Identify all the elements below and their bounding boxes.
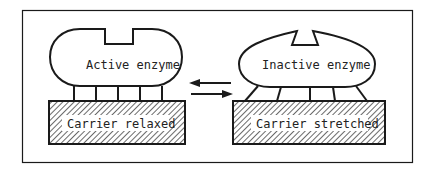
stretched-carrier-label: Carrier stretched — [256, 117, 379, 131]
equilibrium-arrows — [189, 79, 233, 98]
active-enzyme-label: Active enzyme — [86, 58, 180, 72]
arrow-right-head — [222, 90, 233, 98]
arrow-left-head — [189, 79, 200, 87]
stretched-linkers — [245, 86, 367, 101]
inactive-enzyme-group: Inactive enzyme Carrier stretched — [233, 31, 385, 144]
relaxed-linkers — [74, 86, 162, 101]
inactive-enzyme-label: Inactive enzyme — [262, 58, 370, 72]
relaxed-carrier-label: Carrier relaxed — [67, 117, 175, 131]
enzyme-carrier-diagram: Active enzyme Carrier relaxed Inactive e… — [0, 0, 434, 172]
active-enzyme-group: Active enzyme Carrier relaxed — [49, 29, 185, 144]
